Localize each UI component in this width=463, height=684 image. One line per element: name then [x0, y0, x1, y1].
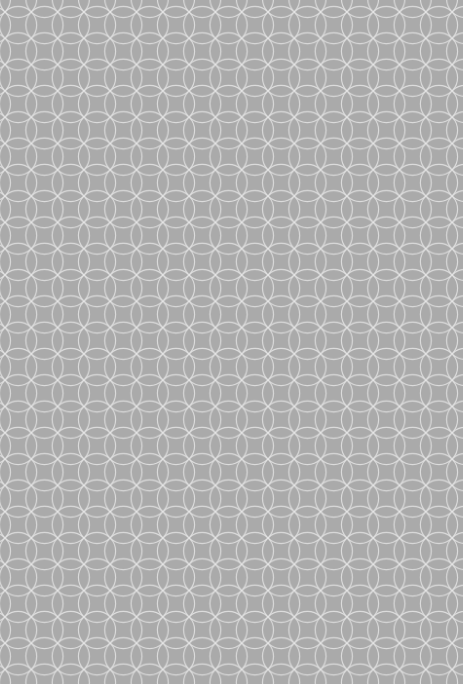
circle-pattern-svg — [0, 0, 463, 684]
interlocking-circle-pattern-background: interlocking-circles — [0, 0, 463, 684]
